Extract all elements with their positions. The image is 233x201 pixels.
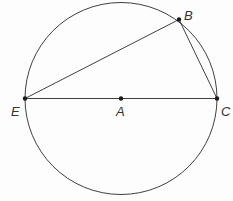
circle-diagram: B E A C <box>0 0 233 201</box>
label-B: B <box>184 8 193 23</box>
segment-BC <box>179 20 217 99</box>
point-A <box>119 96 123 100</box>
label-E: E <box>11 104 20 119</box>
segment-EB <box>25 20 179 99</box>
label-A: A <box>115 104 125 119</box>
point-C <box>215 96 219 100</box>
point-B <box>177 17 181 21</box>
label-C: C <box>221 104 231 119</box>
point-E <box>23 96 27 100</box>
